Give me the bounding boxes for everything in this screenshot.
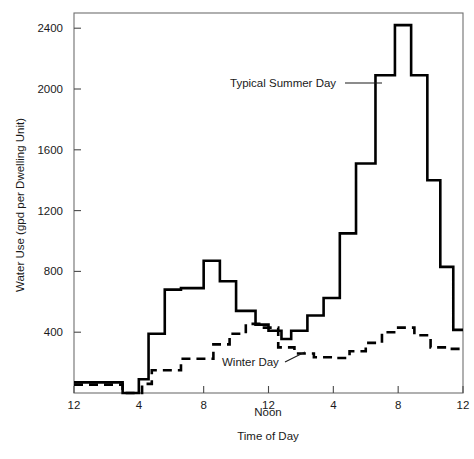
x-tick-label: 8 [395, 399, 401, 411]
plot-frame [74, 13, 463, 393]
x-tick-label: 4 [330, 399, 337, 411]
x-tick-label: 4 [136, 399, 143, 411]
y-tick-label: 2400 [37, 22, 63, 34]
y-axis-title: Water Use (gpd per Dwelling Unit) [14, 118, 26, 292]
winter-day-label: Winter Day [222, 356, 279, 368]
x-tick-label: 12 [68, 399, 81, 411]
x-tick-label: 8 [200, 399, 206, 411]
y-tick-label: 2000 [37, 83, 63, 95]
y-tick-label: 1200 [37, 205, 63, 217]
plot-border [74, 13, 463, 393]
y-tick-label: 400 [44, 326, 63, 338]
y-tick-label: 800 [44, 265, 63, 277]
x-axis-title: Time of Day [237, 430, 299, 442]
noon-label: Noon [254, 406, 282, 418]
y-tick-label: 1600 [37, 144, 63, 156]
winter-day-label-leader-line [285, 352, 305, 362]
water-use-chart: 4008001200160020002400 1248124812 Typica… [0, 0, 474, 459]
summer-day-label: Typical Summer Day [230, 77, 336, 89]
chart-canvas: 4008001200160020002400 1248124812 Typica… [0, 0, 474, 459]
x-tick-label: 12 [457, 399, 470, 411]
